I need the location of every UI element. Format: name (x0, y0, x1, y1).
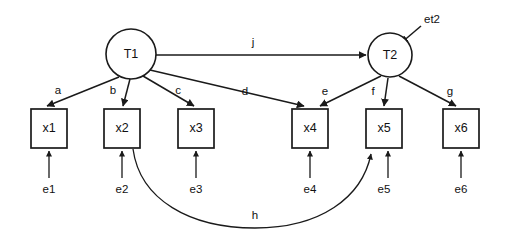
error-term-e3-label: e3 (190, 183, 203, 195)
error-term-e1-label: e1 (43, 183, 56, 195)
path-label-b: b (110, 84, 116, 96)
error-term-e6-label: e6 (455, 183, 468, 195)
path-label-e: e (322, 85, 328, 97)
edge-T1-to-x4 (150, 70, 304, 106)
path-label-g: g (447, 85, 453, 97)
observed-node-x3-label: x3 (189, 121, 202, 135)
edge-T1-to-x2 (123, 79, 130, 106)
edge-T1-to-x3 (143, 76, 194, 106)
path-label-j: j (251, 36, 255, 48)
error-term-e4-label: e4 (304, 183, 317, 195)
path-label-f: f (371, 85, 375, 97)
sem-path-diagram: T1 T2 x1 x2 x3 x4 x5 x6 e1 e2 e3 e4 e5 e… (0, 0, 506, 243)
observed-node-x1-label: x1 (42, 121, 55, 135)
diagram-canvas: T1 T2 x1 x2 x3 x4 x5 x6 e1 e2 e3 e4 e5 e… (0, 0, 506, 243)
path-label-d: d (242, 85, 248, 97)
edge-T2-to-x5 (384, 78, 388, 106)
path-label-h: h (252, 209, 258, 221)
observed-node-x2-label: x2 (115, 121, 128, 135)
error-term-e2-label: e2 (116, 183, 129, 195)
error-term-et2-label: et2 (424, 13, 440, 25)
observed-node-x4-label: x4 (303, 121, 316, 135)
observed-node-x5-label: x5 (377, 121, 390, 135)
latent-node-T2-label: T2 (383, 48, 398, 62)
path-label-a: a (55, 84, 62, 96)
latent-node-T1-label: T1 (124, 47, 139, 61)
error-term-e5-label: e5 (378, 183, 391, 195)
path-label-c: c (175, 84, 181, 96)
observed-node-x6-label: x6 (454, 121, 467, 135)
